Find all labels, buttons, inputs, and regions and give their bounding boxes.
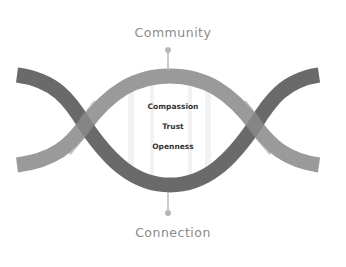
top-connector-dot-icon bbox=[165, 47, 171, 53]
center-background-stripes bbox=[128, 85, 211, 180]
value-trust: Trust bbox=[123, 122, 223, 131]
bottom-label-connection: Connection bbox=[0, 225, 346, 240]
top-label-community: Community bbox=[0, 25, 346, 40]
double-helix-diagram: Community Connection Compassion Trust Op… bbox=[0, 0, 346, 267]
bottom-connector-dot-icon bbox=[165, 210, 171, 216]
value-openness: Openness bbox=[123, 142, 223, 151]
value-compassion: Compassion bbox=[123, 102, 223, 111]
